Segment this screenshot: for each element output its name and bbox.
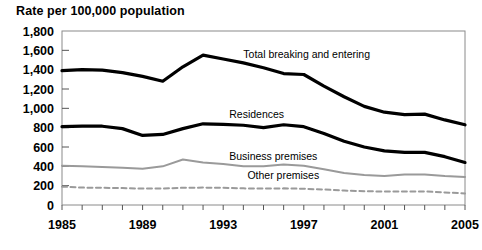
x-axis-tick-labels: 198519891993199720012005 [48,218,479,232]
x-axis-ticks [62,205,465,210]
y-tick-label: 800 [33,121,54,135]
series-annotation-labels: Total breaking and enteringResidencesBus… [229,48,370,181]
series-label-2: Business premises [229,150,317,162]
y-tick-label: 0 [47,199,54,213]
x-tick-label: 2005 [451,218,479,232]
x-tick-label: 2001 [370,218,398,232]
y-tick-label: 1,000 [23,102,54,116]
y-tick-label: 200 [33,179,54,193]
y-tick-label: 400 [33,160,54,174]
series-label-0: Total breaking and entering [243,48,370,60]
y-tick-label: 1,800 [23,25,54,39]
x-tick-label: 1985 [48,218,76,232]
x-tick-label: 1997 [290,218,318,232]
series-label-1: Residences [229,108,284,120]
y-tick-label: 1,400 [23,63,54,77]
series-line-3 [62,187,465,194]
y-axis-tick-labels: 02004006008001,0001,2001,4001,6001,800 [23,25,54,213]
y-tick-label: 1,200 [23,83,54,97]
x-tick-label: 1993 [209,218,237,232]
series-label-3: Other premises [247,169,319,181]
x-tick-label: 1989 [129,218,157,232]
chart-container: Rate per 100,000 population 020040060080… [0,0,482,250]
y-tick-label: 600 [33,141,54,155]
y-tick-label: 1,600 [23,44,54,58]
chart-plot-svg: 02004006008001,0001,2001,4001,6001,800 1… [0,0,482,250]
